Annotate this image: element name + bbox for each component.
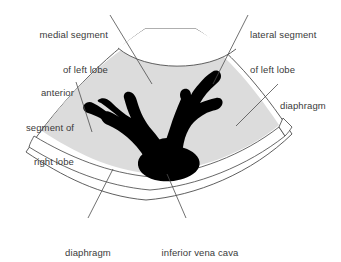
- label-line: lateral segment: [250, 29, 341, 41]
- label-line: of left lobe: [250, 64, 341, 76]
- label-anterior-segment-right-lobe: anterior segment of right lobe: [8, 64, 74, 191]
- label-line: anterior: [8, 87, 74, 99]
- label-diaphragm-bottom: diaphragm: [55, 224, 121, 262]
- label-line: right lobe: [8, 156, 74, 168]
- label-line: inferior vena cava: [148, 247, 252, 259]
- label-line: segment of: [8, 122, 74, 134]
- label-line: diaphragm: [280, 100, 340, 112]
- label-line: diaphragm: [55, 247, 121, 259]
- label-line: medial segment: [12, 29, 108, 41]
- label-diaphragm-right: diaphragm: [280, 77, 340, 135]
- label-inferior-vena-cava: inferior vena cava: [148, 224, 252, 262]
